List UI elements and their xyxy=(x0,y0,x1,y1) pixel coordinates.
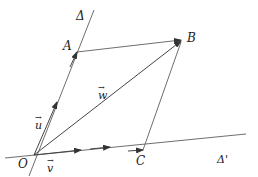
vector-w xyxy=(34,41,181,155)
label-vector-w: → w xyxy=(98,90,107,101)
vector-arrow-icon: → xyxy=(35,114,42,122)
arrow-at-C xyxy=(128,150,143,151)
vector-v xyxy=(34,150,81,155)
vector-arrow-icon: → xyxy=(47,157,54,165)
segment-CB xyxy=(143,42,181,150)
label-delta-prime: Δ' xyxy=(217,154,228,165)
label-vector-v: → v xyxy=(47,163,53,174)
label-C: C xyxy=(136,155,145,167)
label-delta: Δ xyxy=(76,10,85,22)
diagram-svg xyxy=(0,0,258,177)
vector-arrow-icon: → xyxy=(98,84,105,92)
label-vector-u: → u xyxy=(35,120,42,131)
label-B: B xyxy=(187,32,196,44)
segment-AB xyxy=(77,40,181,52)
label-A: A xyxy=(63,40,72,52)
arrow-at-A xyxy=(70,52,77,67)
vector-diagram: Δ A B C O Δ' → u → v → w xyxy=(0,0,258,177)
label-O: O xyxy=(18,158,28,170)
